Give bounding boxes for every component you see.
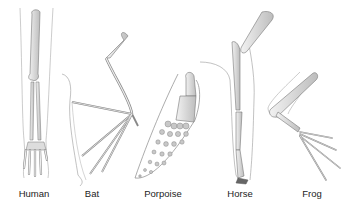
porpoise-flipper	[135, 72, 200, 178]
label-horse: Horse	[210, 188, 270, 199]
human-arm	[20, 8, 53, 178]
label-bat: Bat	[62, 188, 122, 199]
label-human: Human	[4, 188, 64, 199]
horse-leg	[200, 11, 273, 184]
label-porpoise: Porpoise	[133, 188, 193, 199]
label-frog: Frog	[282, 188, 342, 199]
frog-leg	[268, 72, 340, 180]
forelimb-illustration	[0, 0, 356, 213]
bat-wing	[62, 33, 138, 186]
